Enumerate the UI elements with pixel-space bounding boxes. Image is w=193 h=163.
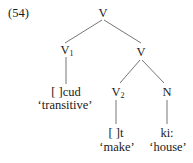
node-n: N [162,86,171,99]
node-subscript: 1 [70,49,74,58]
node-label: V [136,45,145,59]
node-v2: V2 [111,86,124,102]
node-v: V [136,46,145,59]
gloss-transitive: ‘transitive’ [38,99,93,112]
branch-root-v1 [65,20,102,43]
gloss-house: ‘house’ [149,141,187,154]
gloss-make: ‘make’ [99,141,134,154]
example-number: (54) [8,7,29,20]
node-label: V [60,43,69,57]
branch-v-v2 [120,60,140,83]
branch-v-n [142,60,164,83]
node-v1: V1 [60,44,73,60]
form-t: [ ]t [109,127,124,140]
node-subscript: 2 [121,91,125,100]
node-label: N [162,85,171,99]
node-label: V [111,85,120,99]
form-ki: ki: [160,127,173,140]
branch-root-v [104,20,141,43]
node-label: V [98,6,107,20]
node-root-v: V [98,7,107,20]
